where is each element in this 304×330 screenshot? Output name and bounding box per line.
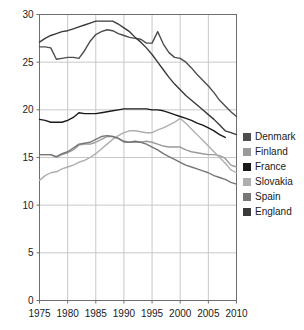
legend-item[interactable]: England [243, 205, 296, 219]
legend-item[interactable]: Slovakia [243, 175, 296, 189]
x-axis-tick-labels: 19751980198519901995200020052010 [28, 308, 248, 319]
legend-item-label: Finland [255, 145, 288, 159]
y-tick-label: 5 [28, 247, 34, 258]
x-tick-label: 1990 [113, 308, 136, 319]
y-tick-label: 15 [22, 152, 34, 163]
y-tick-label: 30 [22, 9, 34, 20]
legend-swatch-icon [243, 133, 251, 141]
legend-item[interactable]: Denmark [243, 130, 296, 144]
legend-item-label: Slovakia [255, 175, 293, 189]
legend-swatch-icon [243, 208, 251, 216]
x-tick-label: 2000 [169, 308, 192, 319]
y-tick-label: 10 [22, 200, 34, 211]
legend-item-label: Denmark [255, 130, 296, 144]
legend-item[interactable]: Finland [243, 145, 296, 159]
x-tick-label: 1995 [141, 308, 164, 319]
chart-legend: DenmarkFinlandFranceSlovakiaSpainEngland [243, 130, 296, 219]
x-tick-label: 2010 [225, 308, 248, 319]
data-series-lines [40, 21, 237, 184]
series-line [40, 30, 237, 117]
y-tick-label: 0 [28, 295, 34, 306]
legend-item[interactable]: Spain [243, 190, 296, 204]
chart-page: 051015202530 197519801985199019952000200… [0, 0, 304, 330]
x-tick-label: 1975 [28, 308, 51, 319]
legend-swatch-icon [243, 163, 251, 171]
legend-swatch-icon [243, 178, 251, 186]
legend-item-label: England [255, 205, 292, 219]
y-tick-label: 25 [22, 57, 34, 68]
x-tick-label: 1985 [85, 308, 108, 319]
y-tick-label: 20 [22, 104, 34, 115]
y-axis-tick-labels: 051015202530 [22, 9, 34, 306]
x-tick-label: 2005 [197, 308, 220, 319]
legend-swatch-icon [243, 148, 251, 156]
legend-item-label: Spain [255, 190, 281, 204]
legend-swatch-icon [243, 193, 251, 201]
x-tick-label: 1980 [57, 308, 80, 319]
legend-item[interactable]: France [243, 160, 296, 174]
legend-item-label: France [255, 160, 286, 174]
